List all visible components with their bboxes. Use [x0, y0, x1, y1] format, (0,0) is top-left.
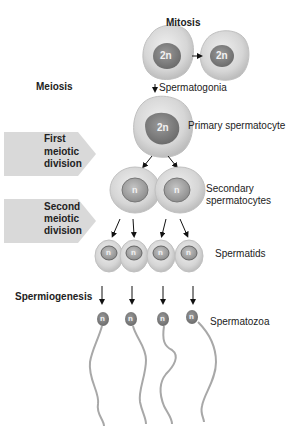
secondary-spermatocytes-label-1: Secondary — [206, 183, 254, 195]
spermatozoon-4 — [198, 322, 216, 422]
spermatogonia-label: Spermatogonia — [159, 82, 227, 94]
second-division-line-3: division — [44, 225, 82, 237]
spermatozoon-2 — [133, 326, 146, 424]
mitosis-label: Mitosis — [166, 17, 200, 29]
spermiogenesis-label: Spermiogenesis — [15, 291, 92, 303]
spermatozoa-label: Spermatozoa — [210, 316, 269, 328]
arrow-to-spermatid-3 — [162, 219, 166, 235]
second-division-line-2: meiotic — [44, 213, 79, 225]
ploidy-label-secondary-1: n — [132, 184, 138, 196]
ploidy-label-spermatid-1: n — [106, 247, 111, 259]
primary-spermatocyte-label: Primary spermatocyte — [188, 120, 285, 132]
arrow-to-spermatid-1 — [113, 219, 120, 235]
ploidy-label-spermatid-4: n — [186, 247, 191, 259]
ploidy-label-primary: 2n — [157, 122, 169, 134]
spermatozoon-3 — [161, 326, 176, 424]
meiosis-label: Meiosis — [36, 81, 73, 93]
arrow-primary-right — [168, 156, 176, 166]
first-division-line-3: division — [44, 158, 82, 170]
ploidy-label-sperm-4: n — [189, 311, 194, 323]
second-division-line-1: Second — [44, 201, 80, 213]
ploidy-label-spermatid-3: n — [158, 247, 163, 259]
arrow-to-spermatid-2 — [133, 219, 134, 235]
spermatids-label: Spermatids — [215, 248, 266, 260]
ploidy-label-spermatogonium-1: 2n — [160, 50, 172, 62]
secondary-spermatocytes-label-2: spermatocytes — [206, 195, 271, 207]
ploidy-label-spermatogonium-2: 2n — [216, 50, 228, 62]
ploidy-label-sperm-1: n — [100, 313, 105, 325]
ploidy-label-sperm-3: n — [160, 313, 165, 325]
ploidy-label-sperm-2: n — [128, 313, 133, 325]
first-division-line-1: First — [44, 133, 66, 145]
arrow-to-spermatid-4 — [180, 219, 187, 235]
first-division-line-2: meiotic — [44, 146, 79, 158]
spermatozoon-1 — [90, 326, 104, 426]
arrow-primary-left — [144, 156, 152, 166]
ploidy-label-secondary-2: n — [174, 184, 180, 196]
secondary-spermatocyte-cell-2 — [155, 167, 205, 213]
ploidy-label-spermatid-2: n — [131, 247, 136, 259]
